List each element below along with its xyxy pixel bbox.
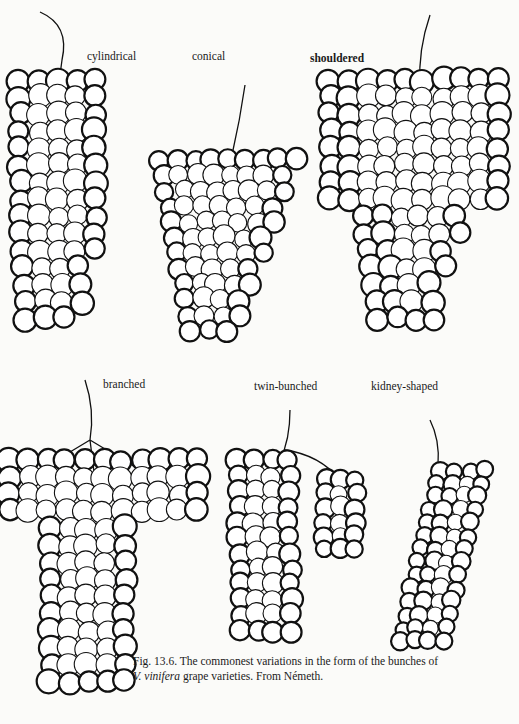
label-kidney-shaped: kidney-shaped [371,380,438,392]
label-twin-bunched: twin-bunched [254,380,317,392]
figure-caption: Fig. 13.6. The commonest variations in t… [133,654,513,684]
kidney-shaped-bunch [391,420,493,650]
caption-line-1: Fig. 13.6. The commonest variations in t… [133,654,513,669]
grape-bunches-illustration [0,0,519,724]
conical-bunch [149,85,307,342]
branched-bunch [0,380,210,694]
label-shouldered: shouldered [310,52,364,64]
twin-bunched-bunch [226,410,367,643]
caption-species: V. vinifera [133,670,180,682]
label-branched: branched [103,378,145,390]
caption-line-2-rest: grape varieties. From Németh. [180,670,323,682]
label-cylindrical: cylindrical [87,50,136,62]
caption-line-2: V. vinifera grape varieties. From Németh… [133,669,513,684]
label-conical: conical [192,50,225,62]
